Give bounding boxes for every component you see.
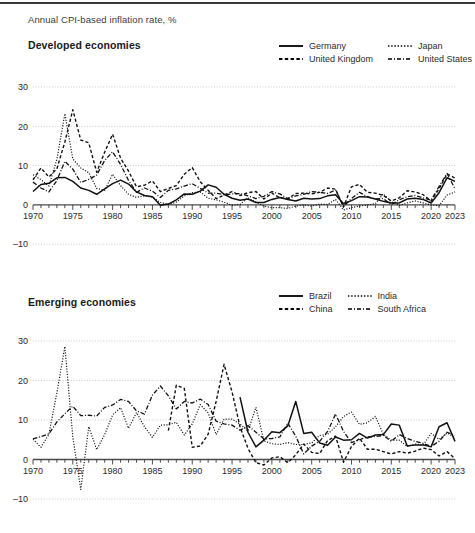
svg-text:0: 0 xyxy=(23,455,28,465)
svg-text:2023: 2023 xyxy=(445,211,465,221)
svg-text:1985: 1985 xyxy=(142,211,162,221)
legend-swatch-dashed-icon xyxy=(278,305,304,313)
legend-item-germany[interactable]: Germany xyxy=(278,41,373,51)
svg-text:1975: 1975 xyxy=(63,211,83,221)
svg-text:2005: 2005 xyxy=(302,466,322,476)
legend-developed: Germany Japan United Kingdom United Stat… xyxy=(278,41,472,64)
svg-text:2020: 2020 xyxy=(421,466,441,476)
svg-text:1970: 1970 xyxy=(23,211,43,221)
legend-item-china[interactable]: China xyxy=(278,304,333,314)
legend-swatch-dotted-icon xyxy=(347,292,373,300)
svg-text:1995: 1995 xyxy=(222,466,242,476)
svg-text:2015: 2015 xyxy=(381,466,401,476)
legend-swatch-dotted-icon xyxy=(387,42,413,50)
legend-item-united-kingdom[interactable]: United Kingdom xyxy=(278,54,373,64)
legend-label-japan: Japan xyxy=(418,41,443,51)
legend-item-japan[interactable]: Japan xyxy=(387,41,472,51)
svg-text:2020: 2020 xyxy=(421,211,441,221)
legend-swatch-dashdot-icon xyxy=(387,55,413,63)
legend-label-united-states: United States xyxy=(418,54,472,64)
svg-text:2000: 2000 xyxy=(262,211,282,221)
legend-swatch-solid-icon xyxy=(278,292,304,300)
svg-text:1980: 1980 xyxy=(103,466,123,476)
svg-text:1975: 1975 xyxy=(63,466,83,476)
legend-label-germany: Germany xyxy=(309,41,346,51)
svg-text:2023: 2023 xyxy=(445,466,465,476)
svg-text:1985: 1985 xyxy=(142,466,162,476)
svg-text:1995: 1995 xyxy=(222,211,242,221)
svg-text:30: 30 xyxy=(18,336,28,346)
svg-text:2010: 2010 xyxy=(341,466,361,476)
svg-text:–10: –10 xyxy=(13,494,28,504)
panel-title-developed: Developed economies xyxy=(28,39,141,51)
svg-text:20: 20 xyxy=(18,122,28,132)
svg-text:1970: 1970 xyxy=(23,466,43,476)
panel-title-emerging: Emerging economies xyxy=(28,296,136,308)
legend-item-united-states[interactable]: United States xyxy=(387,54,472,64)
legend-swatch-dashed-icon xyxy=(278,55,304,63)
svg-text:1980: 1980 xyxy=(103,211,123,221)
legend-label-india: India xyxy=(378,291,398,301)
legend-label-china: China xyxy=(309,304,333,314)
legend-item-south-africa[interactable]: South Africa xyxy=(347,304,427,314)
chart-developed-economies: 3020100–10197019751980198519901995200020… xyxy=(0,78,475,263)
svg-text:0: 0 xyxy=(23,200,28,210)
legend-swatch-solid-icon xyxy=(278,42,304,50)
svg-text:1990: 1990 xyxy=(182,466,202,476)
svg-text:2000: 2000 xyxy=(262,466,282,476)
legend-swatch-dashdot-icon xyxy=(347,305,373,313)
svg-text:30: 30 xyxy=(18,82,28,92)
chart-emerging-economies: 3020100–10197019751980198519901995200020… xyxy=(0,333,475,513)
legend-item-brazil[interactable]: Brazil xyxy=(278,291,333,301)
legend-emerging: Brazil India China South Africa xyxy=(278,291,426,314)
header-rule xyxy=(0,2,475,4)
svg-text:10: 10 xyxy=(18,415,28,425)
svg-text:2010: 2010 xyxy=(341,211,361,221)
svg-text:10: 10 xyxy=(18,161,28,171)
svg-text:–10: –10 xyxy=(13,239,28,249)
svg-text:20: 20 xyxy=(18,376,28,386)
legend-label-united-kingdom: United Kingdom xyxy=(309,54,373,64)
svg-text:2005: 2005 xyxy=(302,211,322,221)
legend-label-south-africa: South Africa xyxy=(378,304,427,314)
legend-item-india[interactable]: India xyxy=(347,291,427,301)
svg-text:1990: 1990 xyxy=(182,211,202,221)
chart-caption: Annual CPI-based inflation rate, % xyxy=(28,14,177,25)
svg-text:2015: 2015 xyxy=(381,211,401,221)
legend-label-brazil: Brazil xyxy=(309,291,332,301)
